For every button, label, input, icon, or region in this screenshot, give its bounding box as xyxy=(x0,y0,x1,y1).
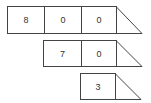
triangle-row3 xyxy=(0,0,151,103)
